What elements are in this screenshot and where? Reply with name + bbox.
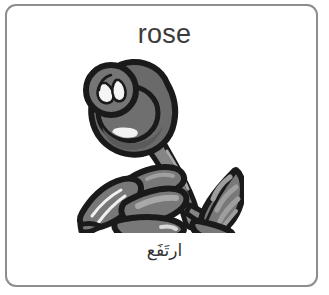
rose-center-swirl-right xyxy=(112,80,125,101)
flashcard: rose xyxy=(0,0,329,295)
bottom-leaf-shape xyxy=(114,217,184,233)
english-word-label: rose xyxy=(0,19,329,49)
left-leaf-tip xyxy=(80,224,100,232)
rose-illustration xyxy=(68,53,244,233)
arabic-word-label: ارتَفَع xyxy=(0,238,329,262)
rose-artwork xyxy=(80,62,243,233)
rose-illustration-svg xyxy=(68,53,244,233)
